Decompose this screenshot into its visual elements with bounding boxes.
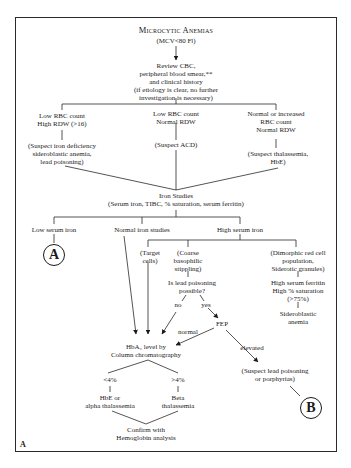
label-no: no — [175, 301, 182, 309]
node-branch-right: Normal or increasedRBC countNormal RDW — [247, 110, 304, 134]
node-high-ferritin: High serum ferritinHigh % saturation(>75… — [271, 279, 325, 303]
node-sideroblastic: Sideroblasticanemia — [280, 310, 317, 326]
connector-b: B — [300, 397, 322, 419]
node-suspect-mid: (Suspect ACD) — [155, 141, 198, 149]
node-iron-studies: Iron Studies(Serum iron, TIBC, % saturat… — [108, 192, 244, 208]
node-lead-question: Is lead poisoningpossible? — [168, 279, 216, 295]
label-elevated: elevated — [240, 344, 263, 352]
label-yes: yes — [201, 301, 210, 309]
node-fep: FEP — [216, 320, 228, 328]
node-high-serum-iron: High serum iron — [217, 226, 263, 234]
node-hbe-alpha: HbE oralpha thalassemia — [85, 394, 135, 410]
node-suspect-right: (Suspect thalassemia,HbE) — [248, 150, 308, 166]
panel-label: A — [20, 440, 26, 449]
connector-a: A — [43, 244, 65, 266]
node-branch-left: Low RBC countHigh RDW (>16) — [37, 112, 86, 128]
node-dimorphic: (Dimorphic red cellpopulation,Siderotic … — [270, 249, 325, 273]
node-confirm: Confirm withHemoglobin analysis — [116, 426, 175, 442]
node-low-serum-iron: Low serum iron — [32, 226, 77, 234]
node-target-cells: (Targetcells) — [140, 249, 160, 265]
node-coarse-stippling: (Coarsebasophilicstippling) — [174, 249, 203, 273]
subtitle: (MCV<80 Fl) — [156, 37, 195, 45]
node-suspect-left: (Suspect iron deficiencysideroblastic an… — [28, 142, 96, 166]
label-normal: normal — [178, 328, 198, 336]
node-beta: Betathalassemia — [162, 394, 195, 410]
node-branch-mid: Low RBC countNormal RDW — [153, 110, 199, 126]
node-review: Review CBC,peripheral blood smear,**and … — [134, 62, 218, 102]
label-lt4: <4% — [103, 376, 116, 384]
title: Microcytic Anemias — [139, 26, 213, 34]
node-suspect-lead: (Suspect lead poisoningor porphyrias) — [242, 367, 309, 383]
node-hba2: HbA₂ level byColumn chromatography — [111, 343, 181, 359]
node-normal-iron: Normal iron studies — [114, 226, 170, 234]
label-gt4: >4% — [171, 376, 184, 384]
